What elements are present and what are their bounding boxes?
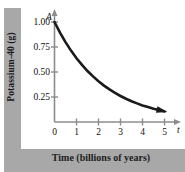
curve-arrowhead xyxy=(156,106,167,113)
x-axis-variable: t xyxy=(177,125,180,135)
x-tick-label: 4 xyxy=(136,128,150,138)
x-tick-label: 1 xyxy=(70,128,84,138)
y-tick-label: 0.50 xyxy=(22,68,50,78)
x-tick-label: 5 xyxy=(158,128,172,138)
x-tick-label: 3 xyxy=(114,128,128,138)
y-axis-arrowhead xyxy=(52,9,58,16)
chart-figure: Potassium-40 (g) Time (billions of years… xyxy=(0,0,185,172)
axis-ticks xyxy=(51,22,165,126)
y-axis-variable: A xyxy=(46,12,52,22)
decay-curve xyxy=(55,22,165,111)
x-tick-label: 0 xyxy=(48,128,62,138)
x-tick-label: 2 xyxy=(92,128,106,138)
y-tick-label: 0.25 xyxy=(22,93,50,103)
y-tick-label: 0.75 xyxy=(22,43,50,53)
